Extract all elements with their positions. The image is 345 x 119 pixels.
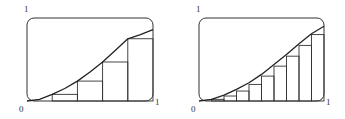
riemann-rectangle (212, 99, 225, 101)
riemann-rectangle (224, 96, 237, 101)
riemann-rectangle (249, 84, 262, 101)
riemann-rectangle (312, 35, 325, 101)
riemann-rectangle (287, 56, 300, 101)
y-max-label-left: 1 (24, 4, 29, 14)
riemann-rectangle (52, 94, 77, 101)
chart-panel-10-rectangles (199, 18, 324, 101)
plot-frame (27, 18, 153, 101)
x-max-label-left: 1 (155, 97, 160, 107)
riemann-sum-figure: 1 0 1 1 0 1 (0, 0, 345, 119)
riemann-rectangle (237, 91, 250, 101)
riemann-rectangle (128, 39, 153, 101)
riemann-rectangle (103, 62, 128, 101)
origin-label-left: 0 (19, 104, 24, 114)
riemann-rectangle (299, 45, 312, 101)
origin-label-right: 0 (191, 104, 196, 114)
riemann-rectangle (77, 81, 102, 101)
x-max-label-right: 1 (326, 97, 331, 107)
y-max-label-right: 1 (196, 4, 201, 14)
function-curve (27, 30, 153, 101)
chart-panel-5-rectangles (27, 18, 153, 101)
riemann-rectangle (274, 66, 287, 101)
riemann-rectangle (262, 76, 275, 101)
